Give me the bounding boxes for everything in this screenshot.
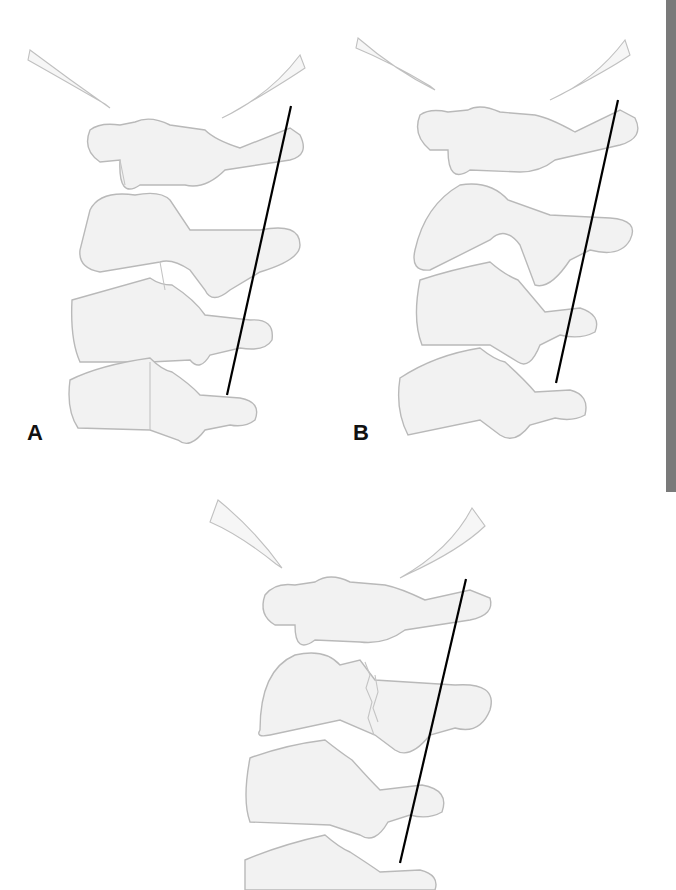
panel-label-a: A <box>27 420 43 446</box>
panel-b: B <box>340 0 666 460</box>
panel-a: A <box>0 0 340 460</box>
spine-illustration-b <box>340 0 666 460</box>
panel-label-b: B <box>353 420 369 446</box>
page-edge-bar <box>666 0 676 492</box>
panel-c <box>200 460 540 890</box>
spine-illustration-c <box>200 460 540 890</box>
spine-illustration-a <box>0 0 340 460</box>
